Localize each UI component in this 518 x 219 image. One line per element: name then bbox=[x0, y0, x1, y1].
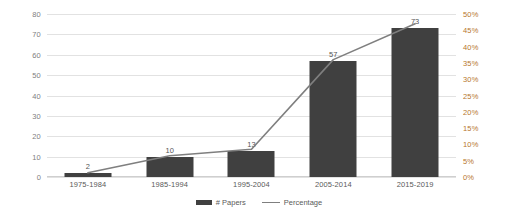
bar-value-label: 13 bbox=[247, 140, 255, 149]
right-axis-tick-label: 15% bbox=[463, 124, 479, 133]
legend-label-percentage: Percentage bbox=[284, 198, 322, 207]
right-axis-tick-label: 45% bbox=[463, 26, 479, 35]
right-axis-tick-label: 0% bbox=[463, 173, 474, 182]
category-label: 2015-2019 bbox=[397, 180, 434, 189]
bar bbox=[310, 61, 357, 177]
left-axis-tick-label: 0 bbox=[37, 173, 41, 182]
right-axis-tick-label: 25% bbox=[463, 91, 479, 100]
left-axis-tick-label: 70 bbox=[32, 30, 41, 39]
right-axis-tick-label: 5% bbox=[463, 156, 474, 165]
bar-value-label: 10 bbox=[166, 146, 174, 155]
bar-slot: 73 bbox=[374, 14, 456, 177]
bar bbox=[64, 173, 111, 177]
category-axis-labels: 1975-19841985-19941995-20042005-20142015… bbox=[47, 180, 456, 194]
right-axis-tick-label: 50% bbox=[463, 10, 479, 19]
bar-slot: 10 bbox=[129, 14, 211, 177]
bar-slot: 2 bbox=[47, 14, 129, 177]
left-axis-tick-label: 60 bbox=[32, 50, 41, 59]
bar-value-label: 73 bbox=[411, 17, 419, 26]
legend-label-papers: # Papers bbox=[216, 198, 246, 207]
right-axis-tick-label: 10% bbox=[463, 140, 479, 149]
left-axis-tick-label: 10 bbox=[32, 152, 41, 161]
bar-value-label: 57 bbox=[329, 50, 337, 59]
category-label: 1995-2004 bbox=[233, 180, 270, 189]
left-axis-tick-label: 20 bbox=[32, 132, 41, 141]
chart-legend: # Papers Percentage bbox=[0, 198, 518, 207]
right-axis-tick-label: 20% bbox=[463, 107, 479, 116]
right-axis-tick-label: 35% bbox=[463, 58, 479, 67]
left-axis-tick-label: 30 bbox=[32, 111, 41, 120]
category-label: 2005-2014 bbox=[315, 180, 352, 189]
bar-slot: 57 bbox=[292, 14, 374, 177]
bar bbox=[228, 151, 275, 177]
bar-slot: 13 bbox=[211, 14, 293, 177]
right-axis-tick-label: 40% bbox=[463, 42, 479, 51]
bar-value-label: 2 bbox=[86, 162, 90, 171]
plot-area: 01020304050607080 0%5%10%15%20%25%30%35%… bbox=[47, 14, 456, 177]
right-axis-tick-label: 30% bbox=[463, 75, 479, 84]
category-label: 1985-1994 bbox=[151, 180, 188, 189]
category-label: 1975-1984 bbox=[70, 180, 107, 189]
bar bbox=[146, 157, 193, 177]
legend-item-percentage: Percentage bbox=[262, 198, 322, 207]
left-axis-tick-label: 40 bbox=[32, 91, 41, 100]
legend-item-papers: # Papers bbox=[196, 198, 246, 207]
line-swatch-icon bbox=[262, 202, 280, 203]
bar-swatch-icon bbox=[196, 200, 212, 205]
left-axis-tick-label: 80 bbox=[32, 10, 41, 19]
combo-chart: 01020304050607080 0%5%10%15%20%25%30%35%… bbox=[0, 0, 518, 219]
bar-series-papers: 210135773 bbox=[47, 14, 456, 177]
gridline bbox=[47, 177, 456, 178]
bar bbox=[392, 28, 439, 177]
left-axis-tick-label: 50 bbox=[32, 71, 41, 80]
